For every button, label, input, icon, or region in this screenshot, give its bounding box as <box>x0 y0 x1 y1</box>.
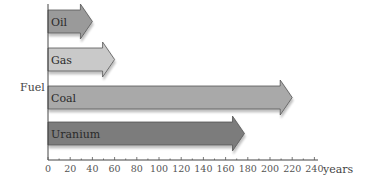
x-tick-label: 220 <box>283 163 301 174</box>
x-tick-label: 200 <box>261 163 279 174</box>
x-tick-label: 100 <box>150 163 168 174</box>
x-tick-label: 80 <box>131 163 143 174</box>
bar-label-oil: Oil <box>51 16 68 29</box>
bar-label-gas: Gas <box>51 54 72 67</box>
x-tick-label: 240 <box>305 163 323 174</box>
bar-series: OilGasCoalUranium <box>48 4 292 151</box>
x-tick-label: 60 <box>109 163 121 174</box>
bar-label-uranium: Uranium <box>51 128 101 141</box>
x-tick-label: 40 <box>86 163 98 174</box>
x-tick-label: 120 <box>172 163 190 174</box>
x-axis-title: years <box>322 163 354 176</box>
x-tick-label: 180 <box>239 163 257 174</box>
bar-coal <box>48 80 292 115</box>
x-tick-label: 0 <box>45 163 51 174</box>
y-axis-title: Fuel <box>20 81 45 94</box>
x-tick-label: 20 <box>64 163 76 174</box>
x-tick-label: 160 <box>217 163 235 174</box>
fuel-reserves-chart: Fuel OilGasCoalUranium 02040608010012014… <box>0 0 370 188</box>
bar-label-coal: Coal <box>51 92 77 105</box>
x-tick-label: 140 <box>194 163 212 174</box>
